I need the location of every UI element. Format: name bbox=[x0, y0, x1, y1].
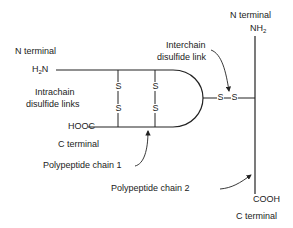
chain1-name-label: Polypeptide chain 1 bbox=[43, 160, 122, 171]
sulfur-atom: S bbox=[152, 104, 159, 113]
chain1-arrow bbox=[135, 131, 148, 166]
chain2-amino-group: NH2 bbox=[250, 23, 266, 34]
chain2-arrow bbox=[220, 175, 251, 189]
chain1-amino-group: H2N bbox=[32, 64, 48, 75]
sulfur-atom: S bbox=[152, 82, 159, 91]
sulfur-atom: S bbox=[231, 93, 238, 102]
chain2-carboxyl-group: COOH bbox=[253, 194, 280, 205]
intrachain-label-line1: Intrachain bbox=[35, 87, 75, 98]
interchain-label-line1: Interchain bbox=[166, 40, 206, 51]
sulfur-atom: S bbox=[115, 104, 122, 113]
chain1-c-terminal-label: C terminal bbox=[58, 139, 99, 150]
sulfur-atom: S bbox=[217, 93, 224, 102]
interchain-arrow bbox=[211, 50, 229, 91]
chain1-n-terminal-label: N terminal bbox=[15, 46, 56, 57]
chain1-carboxyl-group: HOOC bbox=[68, 121, 95, 132]
interchain-label-line2: disulfide link bbox=[157, 52, 206, 63]
chain2-name-label: Polypeptide chain 2 bbox=[111, 183, 190, 194]
intrachain-label-line2: disulfide links bbox=[26, 99, 80, 110]
sulfur-atom: S bbox=[115, 82, 122, 91]
chain2-n-terminal-label: N terminal bbox=[230, 10, 271, 21]
chain2-c-terminal-label: C terminal bbox=[236, 211, 277, 222]
disulfide-bond-diagram: N terminal H2N Intrachain disulfide link… bbox=[0, 0, 293, 228]
